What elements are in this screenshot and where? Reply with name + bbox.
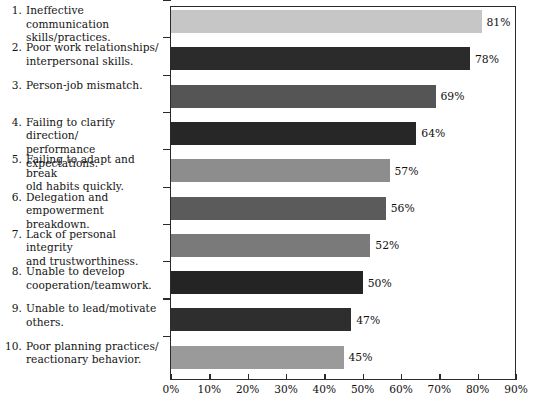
bar [171, 122, 416, 145]
bar-value-label: 81% [482, 15, 511, 28]
x-axis-tick-label: 0% [163, 383, 180, 395]
category-number: 10. [0, 340, 26, 354]
category-number: 8. [0, 265, 26, 279]
category-label: 2.Poor work relationships/ interpersonal… [0, 41, 162, 68]
y-axis-tick [163, 0, 171, 1]
bar-row: 56% [171, 197, 516, 220]
bar [171, 271, 363, 294]
bar [171, 234, 370, 257]
x-axis-tick-label: 70% [428, 383, 452, 395]
category-number: 9. [0, 302, 26, 316]
category-text: Poor work relationships/ interpersonal s… [26, 41, 162, 68]
x-axis-tick-label: 60% [389, 383, 413, 395]
y-axis-tick [163, 187, 171, 188]
category-label: 3.Person-job mismatch. [0, 79, 162, 93]
horizontal-bar-chart: 1.Ineffective communication skills/pract… [0, 0, 544, 407]
category-label: 10.Poor planning practices/ reactionary … [0, 340, 162, 367]
category-text: Delegation and empowerment breakdown. [26, 191, 162, 232]
category-text: Poor planning practices/ reactionary beh… [26, 340, 162, 367]
category-text: Ineffective communication skills/practic… [26, 4, 162, 45]
category-text: Unable to lead/motivate others. [26, 302, 162, 329]
category-label-column: 1.Ineffective communication skills/pract… [0, 0, 168, 380]
x-axis-tick [209, 374, 210, 380]
category-label: 7.Lack of personal integrity and trustwo… [0, 228, 162, 269]
bar-value-label: 45% [344, 351, 373, 364]
y-axis-tick [163, 298, 171, 299]
x-axis-tick-label: 30% [274, 383, 298, 395]
x-axis-tick [171, 374, 172, 380]
bar-value-label: 64% [416, 127, 445, 140]
bar [171, 47, 470, 70]
x-axis-tick-label: 50% [351, 383, 375, 395]
x-axis-tick-label: 10% [198, 383, 222, 395]
category-number: 3. [0, 79, 26, 93]
category-label: 9.Unable to lead/motivate others. [0, 302, 162, 329]
bar-row: 64% [171, 122, 516, 145]
bar-row: 78% [171, 47, 516, 70]
bar-value-label: 57% [390, 164, 419, 177]
bar [171, 85, 436, 108]
category-number: 1. [0, 4, 26, 18]
bar-value-label: 78% [470, 52, 499, 65]
y-axis-tick [163, 112, 171, 113]
bar-value-label: 47% [351, 313, 380, 326]
category-number: 4. [0, 116, 26, 130]
category-label: 1.Ineffective communication skills/pract… [0, 4, 162, 45]
category-number: 7. [0, 228, 26, 242]
y-axis-tick [163, 75, 171, 76]
bar [171, 346, 344, 369]
x-axis-tick [363, 374, 364, 380]
category-label: 8.Unable to develop cooperation/teamwork… [0, 265, 162, 292]
bar [171, 308, 351, 331]
category-number: 5. [0, 153, 26, 167]
x-axis-tick-label: 40% [313, 383, 337, 395]
bar-row: 57% [171, 159, 516, 182]
x-axis-tick [439, 374, 440, 380]
bar-row: 81% [171, 10, 516, 33]
category-number: 2. [0, 41, 26, 55]
y-axis-tick [163, 261, 171, 262]
bar-value-label: 56% [386, 202, 415, 215]
x-axis-tick [324, 374, 325, 380]
x-axis-tick [286, 374, 287, 380]
category-text: Lack of personal integrity and trustwort… [26, 228, 162, 269]
category-text: Unable to develop cooperation/teamwork. [26, 265, 162, 292]
bar-row: 69% [171, 85, 516, 108]
x-axis-tick-label: 90% [504, 383, 528, 395]
bar-value-label: 69% [436, 90, 465, 103]
bar-value-label: 50% [363, 276, 392, 289]
bar-row: 52% [171, 234, 516, 257]
category-number: 6. [0, 191, 26, 205]
x-axis: 0%10%20%30%40%50%60%70%80%90% [171, 380, 516, 407]
y-axis-tick [163, 224, 171, 225]
bars-layer: 81%78%69%64%57%56%52%50%47%45% [171, 7, 516, 380]
x-axis-tick-label: 80% [466, 383, 490, 395]
bar-value-label: 52% [370, 239, 399, 252]
y-axis-tick [163, 336, 171, 337]
bar [171, 197, 386, 220]
y-axis-tick [163, 149, 171, 150]
x-axis-tick [516, 374, 517, 380]
x-axis-tick [401, 374, 402, 380]
x-axis-tick [248, 374, 249, 380]
category-label: 5.Failing to adapt and break old habits … [0, 153, 162, 194]
bar-row: 47% [171, 308, 516, 331]
bar-row: 45% [171, 346, 516, 369]
bar [171, 159, 390, 182]
category-text: Person-job mismatch. [26, 79, 162, 93]
x-axis-tick [478, 374, 479, 380]
x-axis-tick-label: 20% [236, 383, 260, 395]
category-label: 6.Delegation and empowerment breakdown. [0, 191, 162, 232]
bar-row: 50% [171, 271, 516, 294]
bar [171, 10, 482, 33]
category-text: Failing to adapt and break old habits qu… [26, 153, 162, 194]
y-axis-tick [163, 37, 171, 38]
